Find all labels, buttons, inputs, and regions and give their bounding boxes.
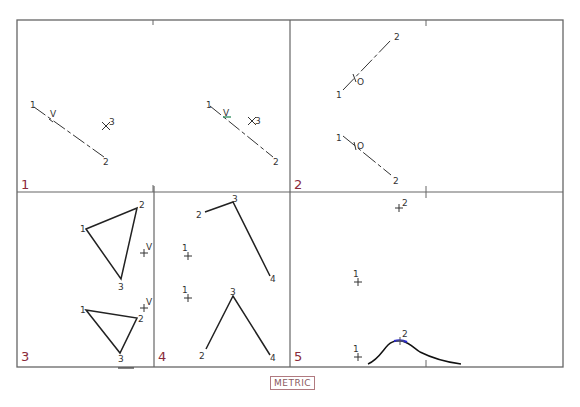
panel-number-1: 1 [21,177,29,192]
svg-text:2: 2 [393,176,399,186]
panel-number-2: 2 [294,177,302,192]
svg-text:3: 3 [118,354,124,364]
svg-text:1: 1 [30,100,36,110]
svg-text:3: 3 [230,287,236,297]
panel-1-left-figure: 1 V 2 3 [30,100,115,167]
svg-text:2: 2 [139,200,145,210]
svg-text:1: 1 [80,305,86,315]
svg-text:1: 1 [80,224,86,234]
svg-text:1: 1 [182,285,188,295]
panel-5-figures: 2 1 1 2 [353,198,461,364]
svg-text:2: 2 [394,32,400,42]
svg-text:O: O [357,141,364,151]
svg-text:3: 3 [109,117,115,127]
svg-text:2: 2 [199,351,205,361]
svg-text:1: 1 [336,133,342,143]
svg-text:1: 1 [336,90,342,100]
svg-text:1: 1 [206,100,212,110]
svg-text:2: 2 [138,314,144,324]
diagram-canvas: 1 V 2 3 1 V 2 3 1 1 O 2 1 O 2 2 1 2 3 V [0,0,580,407]
svg-text:3: 3 [118,282,124,292]
svg-text:1: 1 [182,243,188,253]
svg-text:3: 3 [232,194,238,204]
svg-text:V: V [223,108,230,118]
panel-3-figures: 1 2 3 V 1 2 3 V [80,200,153,368]
svg-text:V: V [50,109,57,119]
svg-text:V: V [146,242,153,252]
panel-number-3: 3 [21,349,29,364]
svg-text:4: 4 [270,274,276,284]
svg-text:V: V [146,297,153,307]
panel-4-figures: 2 3 4 1 2 3 4 1 [182,194,276,363]
panel-number-5: 5 [294,349,302,364]
svg-text:2: 2 [103,157,109,167]
panel-2-figures: 1 O 2 1 O 2 [336,32,400,186]
svg-text:4: 4 [270,353,276,363]
svg-text:1: 1 [353,269,359,279]
svg-text:2: 2 [402,329,408,339]
svg-text:O: O [357,77,364,87]
svg-text:2: 2 [196,210,202,220]
panel-1-right-figure: 1 V 2 3 [206,100,279,167]
units-label: METRIC [270,376,315,390]
svg-text:2: 2 [402,198,408,208]
panel-number-4: 4 [158,349,166,364]
svg-text:1: 1 [353,344,359,354]
svg-text:3: 3 [255,116,261,126]
svg-text:2: 2 [273,157,279,167]
